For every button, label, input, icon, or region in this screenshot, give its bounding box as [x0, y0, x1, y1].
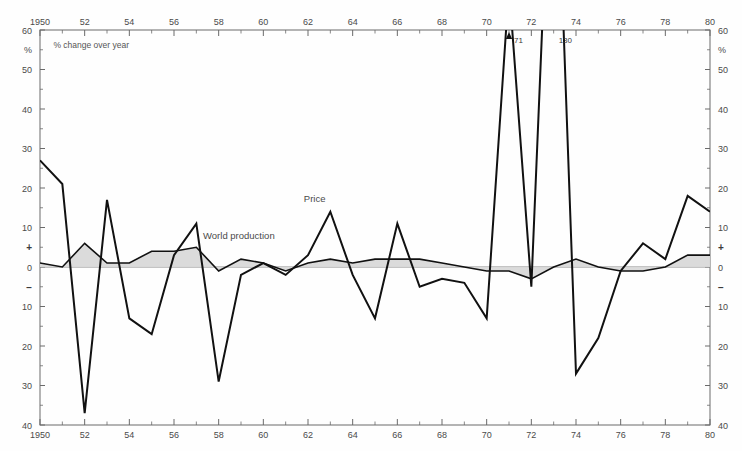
y-tick-label-left: 30 — [22, 144, 32, 154]
y-tick-label-left: 10 — [22, 302, 32, 312]
y-minus-symbol-left: − — [26, 282, 32, 293]
x-tick-label-bottom: 80 — [705, 430, 715, 440]
x-tick-label-bottom: 56 — [169, 430, 179, 440]
x-tick-label-bottom: 62 — [303, 430, 313, 440]
x-tick-label-top: 66 — [392, 17, 402, 27]
x-tick-label-top: 64 — [348, 17, 358, 27]
x-tick-label-top: 78 — [660, 17, 670, 27]
price-label: Price — [304, 193, 326, 204]
x-tick-label-top: 52 — [80, 17, 90, 27]
x-tick-label-top: 56 — [169, 17, 179, 27]
x-tick-label-top: 62 — [303, 17, 313, 27]
x-tick-label-top: 60 — [258, 17, 268, 27]
x-tick-label-top: 68 — [437, 17, 447, 27]
x-tick-label-bottom: 60 — [258, 430, 268, 440]
x-tick-label-bottom: 58 — [214, 430, 224, 440]
y-tick-label-right: 30 — [718, 144, 728, 154]
y-tick-label-right: 40 — [718, 421, 728, 431]
x-tick-label-bottom: 1950 — [30, 430, 50, 440]
y-tick-label-left: 30 — [22, 381, 32, 391]
spike-value-label: 130 — [559, 36, 573, 45]
y-unit-symbol-right: % — [718, 45, 726, 55]
x-tick-label-bottom: 52 — [80, 430, 90, 440]
chart-figure: 4040303020201010001010202030304040505060… — [0, 0, 742, 451]
spike-value-label: 71 — [514, 36, 523, 45]
y-tick-label-right: 30 — [718, 381, 728, 391]
y-plus-symbol-right: + — [718, 242, 724, 253]
y-tick-label-right: 40 — [718, 105, 728, 115]
y-tick-label-left: 40 — [22, 105, 32, 115]
x-tick-label-bottom: 78 — [660, 430, 670, 440]
x-tick-label-top: 70 — [482, 17, 492, 27]
y-tick-label-left: 60 — [22, 26, 32, 36]
y-tick-label-left: 50 — [22, 65, 32, 75]
y-tick-label-left: 10 — [22, 223, 32, 233]
y-tick-label-left: 20 — [22, 342, 32, 352]
x-tick-label-bottom: 72 — [526, 430, 536, 440]
y-tick-label-right: 0 — [718, 263, 723, 273]
y-tick-label-left: 0 — [27, 263, 32, 273]
x-tick-label-bottom: 64 — [348, 430, 358, 440]
y-tick-label-right: 10 — [718, 223, 728, 233]
x-tick-label-top: 1950 — [30, 17, 50, 27]
y-unit-symbol-left: % — [24, 45, 32, 55]
y-tick-label-right: 20 — [718, 184, 728, 194]
y-tick-label-left: 20 — [22, 184, 32, 194]
x-tick-label-bottom: 74 — [571, 430, 581, 440]
x-tick-label-top: 54 — [124, 17, 134, 27]
x-tick-label-bottom: 54 — [124, 430, 134, 440]
y-tick-label-right: 10 — [718, 302, 728, 312]
y-tick-label-left: 40 — [22, 421, 32, 431]
y-plus-symbol-left: + — [26, 242, 32, 253]
x-tick-label-top: 76 — [616, 17, 626, 27]
chart-caption: % change over year — [53, 40, 129, 50]
x-tick-label-bottom: 68 — [437, 430, 447, 440]
y-tick-label-right: 50 — [718, 65, 728, 75]
x-tick-label-bottom: 66 — [392, 430, 402, 440]
chart-canvas: 4040303020201010001010202030304040505060… — [0, 0, 742, 451]
x-tick-label-top: 72 — [526, 17, 536, 27]
x-tick-label-top: 58 — [214, 17, 224, 27]
y-tick-label-right: 20 — [718, 342, 728, 352]
world-production-label: World production — [203, 230, 275, 241]
x-tick-label-top: 74 — [571, 17, 581, 27]
x-tick-label-top: 80 — [705, 17, 715, 27]
x-tick-label-bottom: 76 — [616, 430, 626, 440]
y-tick-label-right: 60 — [718, 26, 728, 36]
x-tick-label-bottom: 70 — [482, 430, 492, 440]
y-minus-symbol-right: − — [718, 282, 724, 293]
